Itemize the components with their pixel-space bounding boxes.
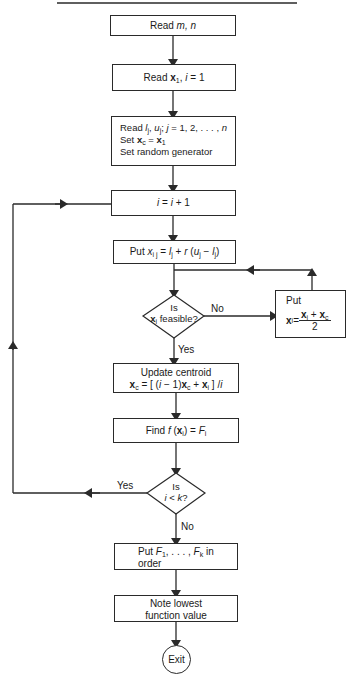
order-line-2: order bbox=[138, 558, 237, 570]
feasible-decision-text: Is xi feasible? bbox=[143, 302, 205, 324]
edge-label-yes-loop: Yes bbox=[117, 480, 133, 492]
node-label: Put xi j = lj + r (uj − lj) bbox=[130, 246, 220, 258]
order-values-box: Put F1, . . . , Fk in order bbox=[114, 543, 238, 570]
exit-terminal: Exit bbox=[162, 645, 191, 674]
order-line-1: Put F1, . . . , Fk in bbox=[138, 546, 237, 558]
init-line-2: Set xc = x1 bbox=[120, 134, 235, 146]
increment-box: i = i + 1 bbox=[111, 190, 236, 216]
init-line-3: Set random generator bbox=[120, 146, 235, 158]
put-random-point-box: Put xi j = lj + r (uj − lj) bbox=[113, 240, 236, 264]
put-midpoint-box: Put xi = xi + xc 2 bbox=[275, 290, 346, 338]
midpoint-formula: xi = xi + xc 2 bbox=[286, 309, 345, 332]
node-label: i = i + 1 bbox=[157, 197, 190, 209]
edge-label-no-continue: No bbox=[181, 521, 194, 533]
find-f-box: Find f (xi) = Fi bbox=[113, 418, 239, 443]
node-label: Read m, n bbox=[150, 20, 196, 32]
initialization-box: Read lj, uj; j = 1, 2, . . . , n Set xc … bbox=[111, 116, 236, 166]
init-line-1: Read lj, uj; j = 1, 2, . . . , n bbox=[120, 122, 235, 134]
read-m-n-box: Read m, n bbox=[110, 15, 236, 36]
node-label: Read x1, i = 1 bbox=[144, 72, 205, 84]
read-x1-box: Read x1, i = 1 bbox=[112, 64, 236, 91]
exit-label: Exit bbox=[168, 654, 185, 665]
node-label: Find f (xi) = Fi bbox=[146, 425, 207, 437]
k-decision-text: Is i < k? bbox=[147, 481, 205, 503]
edge-label-yes: Yes bbox=[178, 344, 194, 356]
note-lowest-box: Note lowest function value bbox=[114, 595, 238, 622]
edge-label-no: No bbox=[211, 303, 224, 315]
update-centroid-box: Update centroid xc = [ (i − 1)xc + xi ] … bbox=[113, 363, 239, 393]
centroid-formula: xc = [ (i − 1)xc + xi ] /i bbox=[114, 379, 238, 391]
